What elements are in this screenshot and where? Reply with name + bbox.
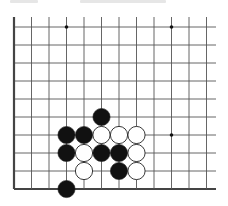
star-point: [170, 133, 174, 137]
white-stone: [110, 126, 127, 143]
black-stone: [110, 144, 127, 161]
white-stone: [128, 162, 145, 179]
white-stone: [128, 144, 145, 161]
black-stone: [58, 126, 75, 143]
black-stone: [58, 144, 75, 161]
star-point: [170, 25, 174, 29]
black-stone: [93, 108, 110, 125]
white-stone: [93, 126, 110, 143]
black-stone: [58, 180, 75, 197]
white-stone: [75, 162, 92, 179]
star-point: [65, 25, 69, 29]
go-board[interactable]: [0, 0, 228, 206]
black-stone: [110, 162, 127, 179]
white-stone: [128, 126, 145, 143]
white-stone: [75, 144, 92, 161]
black-stone: [93, 144, 110, 161]
black-stone: [75, 126, 92, 143]
